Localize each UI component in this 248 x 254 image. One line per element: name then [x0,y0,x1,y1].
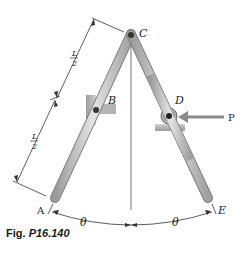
figure-canvas: L 2 L 2 C B D P A E θ θ Fig. P16.140 [0,0,248,254]
caption-number: P16.140 [29,227,70,239]
angle-arc [52,212,212,225]
mechanism-diagram: L 2 L 2 C B D P A E θ θ [0,0,248,254]
pin-b [93,107,99,113]
svg-text:2: 2 [71,59,77,68]
svg-text:L: L [31,132,37,141]
pin-c [128,32,134,38]
dimension-label-lower: L 2 [30,132,38,151]
bar-ac [55,34,131,198]
label-e: E [217,204,226,217]
force-p-arrow [178,111,224,123]
label-a: A [36,205,45,216]
dimension-label-upper: L 2 [70,49,78,68]
svg-text:L: L [71,49,77,58]
svg-text:2: 2 [31,142,37,151]
label-theta-right: θ [172,216,179,229]
label-theta-left: θ [80,216,87,229]
pin-d [166,113,172,119]
label-p: P [228,112,235,123]
caption-prefix: Fig. [6,227,26,239]
figure-caption: Fig. P16.140 [6,227,70,239]
label-c: C [139,27,148,40]
label-d: D [174,94,184,107]
label-b: B [107,94,116,107]
